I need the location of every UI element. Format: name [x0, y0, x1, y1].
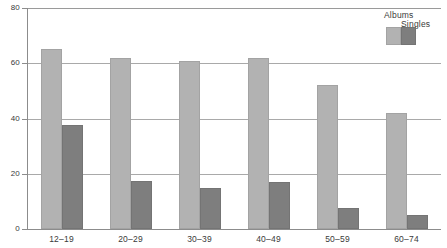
- x-tick-label-20–29: 20–29: [96, 234, 165, 244]
- bar-albums-20–29: [110, 58, 131, 229]
- legend-swatch-albums: [386, 27, 401, 45]
- bar-singles-12–19: [62, 125, 83, 229]
- bar-albums-40–49: [248, 58, 269, 229]
- legend: Albums Singles: [383, 10, 447, 50]
- y-tick-label-80: 80: [0, 4, 20, 12]
- bar-singles-20–29: [131, 181, 152, 229]
- x-tick-label-30–39: 30–39: [165, 234, 234, 244]
- gridline-40: [27, 119, 441, 120]
- legend-swatch-singles: [401, 27, 416, 45]
- bar-singles-30–39: [200, 188, 221, 229]
- bar-singles-50–59: [338, 208, 359, 229]
- x-axis-line: [27, 229, 441, 230]
- bar-chart: 020406080 12–1920–2930–3940–4950–5960–74…: [0, 0, 447, 248]
- bar-albums-12–19: [41, 49, 62, 229]
- bar-singles-60–74: [407, 215, 428, 229]
- plot-area: [27, 8, 441, 229]
- y-tick-label-60: 60: [0, 59, 20, 67]
- bar-albums-50–59: [317, 85, 338, 229]
- y-tick-label-0: 0: [0, 225, 20, 233]
- y-tick-label-20: 20: [0, 170, 20, 178]
- gridline-80: [27, 8, 441, 9]
- bar-albums-60–74: [386, 113, 407, 229]
- y-tick-label-40: 40: [0, 115, 20, 123]
- x-tick-label-40–49: 40–49: [234, 234, 303, 244]
- gridline-60: [27, 63, 441, 64]
- y-axis-line: [27, 8, 28, 229]
- x-tick-label-50–59: 50–59: [303, 234, 372, 244]
- x-tick-label-12–19: 12–19: [27, 234, 96, 244]
- bar-albums-30–39: [179, 61, 200, 230]
- x-tick-label-60–74: 60–74: [372, 234, 441, 244]
- bar-singles-40–49: [269, 182, 290, 229]
- gridline-20: [27, 174, 441, 175]
